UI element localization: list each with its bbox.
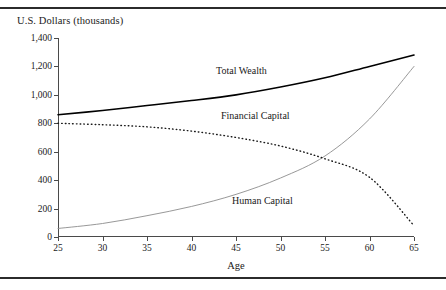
- x-tick-label: 45: [231, 243, 241, 253]
- x-tick-label: 35: [142, 243, 152, 253]
- x-tick-mark: [281, 237, 282, 241]
- life-cycle-wealth-chart: U.S. Dollars (thousands) 02004006008001,…: [0, 9, 446, 277]
- x-tick-label: 25: [53, 243, 63, 253]
- x-tick-label: 30: [98, 243, 108, 253]
- y-tick-label: 600: [38, 147, 52, 157]
- x-tick-label: 55: [320, 243, 330, 253]
- x-tick-mark: [103, 237, 104, 241]
- y-tick-label: 800: [38, 118, 52, 128]
- y-tick-label: 1,400: [31, 33, 52, 43]
- y-tick-label: 1,000: [31, 90, 52, 100]
- x-tick-mark: [414, 237, 415, 241]
- y-axis-title: U.S. Dollars (thousands): [17, 15, 123, 26]
- y-tick-label: 0: [47, 232, 52, 242]
- x-tick-label: 60: [365, 243, 375, 253]
- y-tick-label: 200: [38, 204, 52, 214]
- x-tick-mark: [370, 237, 371, 241]
- series-label-total-wealth: Total Wealth: [216, 65, 267, 76]
- series-label-human-capital: Human Capital: [232, 195, 293, 206]
- page-rule-bottom: [0, 277, 446, 279]
- x-tick-mark: [325, 237, 326, 241]
- x-axis-title: Age: [227, 260, 245, 271]
- x-tick-label: 40: [187, 243, 197, 253]
- series-label-financial-capital: Financial Capital: [221, 110, 290, 121]
- x-tick-mark: [147, 237, 148, 241]
- x-tick-label: 65: [409, 243, 419, 253]
- series-path-total-wealth: [58, 55, 414, 115]
- y-tick-label: 400: [38, 175, 52, 185]
- x-tick-mark: [58, 237, 59, 241]
- x-tick-label: 50: [276, 243, 286, 253]
- x-tick-mark: [192, 237, 193, 241]
- series-path-human-capital: [58, 123, 414, 225]
- x-tick-mark: [236, 237, 237, 241]
- y-tick-label: 1,200: [31, 61, 52, 71]
